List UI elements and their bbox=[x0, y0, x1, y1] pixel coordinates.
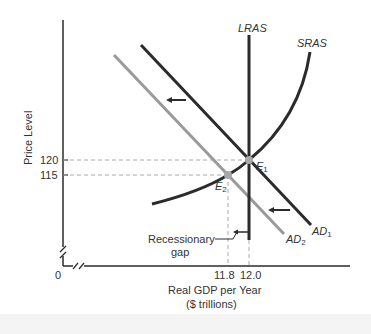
ad1-label: AD1 bbox=[312, 226, 332, 239]
lras-label: LRAS bbox=[238, 23, 267, 34]
arrow-left-icon bbox=[166, 97, 172, 103]
x-tick-label-11-8: 11.8 bbox=[214, 270, 235, 281]
e2-label: E2 bbox=[215, 181, 227, 194]
ad2-label: AD2 bbox=[286, 234, 306, 247]
sras-label: SRAS bbox=[297, 38, 327, 49]
x-tick-label-12-0: 12.0 bbox=[240, 270, 261, 281]
arrow-left-icon bbox=[268, 207, 274, 213]
ad1-curve bbox=[141, 45, 311, 225]
x-axis-break-icon bbox=[73, 263, 78, 269]
chart-figure: LRAS SRAS AD1 AD2 E1 E2 120 115 0 11.8 1… bbox=[0, 0, 371, 334]
gap-label-line2: gap bbox=[171, 247, 189, 258]
y-tick-label-120: 120 bbox=[40, 155, 58, 166]
gap-leader-line bbox=[215, 232, 237, 239]
x-axis-title-line1: Real GDP per Year bbox=[168, 285, 261, 296]
e1-label: E1 bbox=[256, 161, 268, 174]
y-tick-label-115: 115 bbox=[40, 170, 58, 181]
ad2-curve bbox=[114, 55, 284, 234]
e1-point bbox=[245, 156, 253, 164]
y-axis-title: Price Level bbox=[23, 111, 34, 165]
x-tick-label-0: 0 bbox=[55, 270, 61, 281]
sras-curve bbox=[152, 52, 310, 204]
x-axis-title-line2: ($ trillions) bbox=[186, 299, 237, 310]
page-bottom-margin bbox=[0, 314, 371, 334]
gap-label-line1: Recessionary bbox=[148, 234, 215, 245]
e2-point bbox=[224, 171, 232, 179]
